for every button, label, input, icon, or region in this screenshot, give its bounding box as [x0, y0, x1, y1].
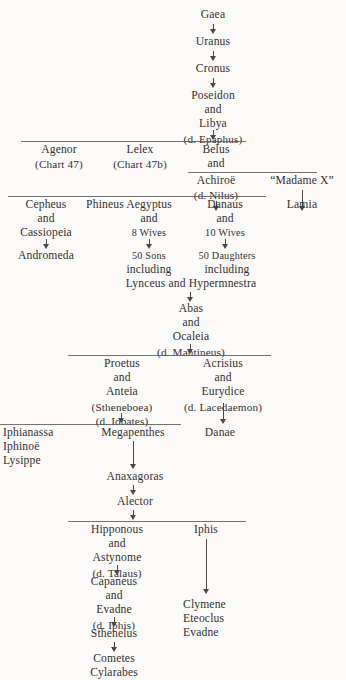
node-anteia-alt-name: (Stheneboea): [68, 400, 176, 414]
node-megapenthes: Megapenthes: [86, 426, 180, 440]
arrow-poseidon-to-belus: [209, 130, 218, 141]
node-fifty-daughters-label: 50 Daughters: [182, 249, 272, 263]
node-megapenthes-label: Megapenthes: [86, 426, 180, 440]
node-iphinoe-label: Iphinoë: [3, 440, 77, 454]
node-belus: Belus and: [186, 143, 246, 171]
node-fifty-daughters: 50 Daughters including: [182, 249, 272, 277]
node-ocaleia-label: Ocaleia: [140, 330, 242, 344]
node-sthenelus-children: Cometes Cylarabes: [70, 652, 158, 680]
node-gaea: Gaea: [183, 8, 243, 22]
node-alector-label: Alector: [99, 495, 171, 509]
node-iphis: Iphis: [176, 523, 236, 537]
node-andromeda-label: Andromeda: [2, 249, 90, 263]
conjunction-and-10: and: [68, 589, 160, 603]
connector-cepheus-phineus-aegyptus-danaus: [8, 196, 266, 197]
conjunction-and-6: and: [140, 316, 242, 330]
arrow-acrisius-to-danae: [219, 403, 228, 425]
node-including-2: including: [182, 263, 272, 277]
arrow-abas-to-proetus-acrisius: [186, 344, 195, 355]
arrow-proetus-to-megapenthes: [117, 413, 126, 424]
node-sthenelus-label: Sthenelus: [72, 627, 156, 641]
node-agenor: Agenor (Chart 47): [21, 143, 97, 171]
node-abas-label: Abas: [140, 302, 242, 316]
arrow-cronus-to-poseidon: [209, 78, 218, 89]
connector-agenor-lelex-belus: [21, 141, 246, 142]
node-danae: Danae: [191, 426, 249, 440]
node-hipponous-label: Hipponous: [68, 523, 166, 537]
node-cepheus: Cepheus and Cassiopeia: [8, 198, 84, 241]
node-iphis-label: Iphis: [176, 523, 236, 537]
node-agenor-chart-ref: (Chart 47): [21, 157, 97, 171]
node-cepheus-label: Cepheus: [8, 198, 84, 212]
node-lamia: Lamia: [272, 198, 332, 212]
node-madame-x: “Madame X”: [262, 174, 342, 188]
node-astynome-label: Astynome: [68, 551, 166, 565]
conjunction-and-3: and: [8, 212, 84, 226]
node-aegyptus-label: Aegyptus: [110, 198, 188, 212]
node-danaus-label: Danaus: [186, 198, 264, 212]
conjunction-and-7: and: [68, 371, 176, 385]
connector-hipponous-iphis: [68, 521, 246, 522]
node-including-1: including: [110, 263, 188, 277]
node-fifty-sons-label: 50 Sons: [110, 249, 188, 263]
arrow-iphis-to-children: [202, 539, 211, 595]
node-lysippe-label: Lysippe: [3, 454, 77, 468]
conjunction-and-4: and: [110, 212, 188, 226]
node-lelex-label: Lelex: [97, 143, 183, 157]
node-eteoclus-label: Eteoclus: [183, 612, 263, 626]
node-gaea-label: Gaea: [183, 8, 243, 22]
node-agenor-label: Agenor: [21, 143, 97, 157]
node-cylarabes-label: Cylarabes: [70, 666, 158, 680]
node-danae-label: Danae: [191, 426, 249, 440]
node-uranus-label: Uranus: [183, 35, 243, 49]
arrow-megapenthes-to-anaxagoras: [129, 441, 138, 470]
conjunction-and-8: and: [168, 371, 278, 385]
node-evadne-2-label: Evadne: [183, 626, 263, 640]
node-acrisius-label: Acrisius: [168, 357, 278, 371]
node-achiroe-label: Achiroë: [186, 174, 246, 188]
node-capaneus-label: Capaneus: [68, 575, 160, 589]
node-evadne-label: Evadne: [68, 603, 160, 617]
conjunction-and: and: [173, 103, 253, 117]
node-andromeda: Andromeda: [2, 249, 90, 263]
node-lelex: Lelex (Chart 47b): [97, 143, 183, 171]
node-lamia-label: Lamia: [272, 198, 332, 212]
node-proetus-label: Proetus: [68, 357, 176, 371]
node-clymene-label: Clymene: [183, 598, 263, 612]
node-lelex-chart-ref: (Chart 47b): [97, 157, 183, 171]
node-lynceus-hypermnestra-label: Lynceus and Hypermnestra: [103, 277, 279, 291]
connector-iphianassa-megapenthes: [0, 424, 181, 425]
node-iphianassa-label: Iphianassa: [3, 426, 77, 440]
arrow-uranus-to-cronus: [209, 51, 218, 62]
node-poseidon-label: Poseidon: [173, 89, 253, 103]
node-belus-label: Belus: [186, 143, 246, 157]
node-cronus: Cronus: [183, 62, 243, 76]
node-cometes-label: Cometes: [70, 652, 158, 666]
arrow-gaea-to-uranus: [209, 24, 218, 35]
node-anaxagoras: Anaxagoras: [92, 470, 178, 484]
conjunction-and-5: and: [186, 212, 264, 226]
node-anteia-label: Anteia: [68, 385, 176, 399]
conjunction-and-2: and: [186, 157, 246, 171]
connector-proetus-acrisius: [68, 355, 271, 356]
node-proetids: Iphianassa Iphinoë Lysippe: [3, 426, 77, 469]
node-cronus-label: Cronus: [183, 62, 243, 76]
node-eurydice-label: Eurydice: [168, 385, 278, 399]
arrow-alector-to-hipponous: [129, 510, 138, 521]
node-lynceus-hypermnestra: Lynceus and Hypermnestra: [103, 277, 279, 291]
node-anaxagoras-label: Anaxagoras: [92, 470, 178, 484]
node-madame-x-label: “Madame X”: [262, 174, 342, 188]
node-aegyptus: Aegyptus and 8 Wives: [110, 198, 188, 241]
node-uranus: Uranus: [183, 35, 243, 49]
node-sthenelus: Sthenelus: [72, 627, 156, 641]
conjunction-and-9: and: [68, 537, 166, 551]
node-danaus: Danaus and 10 Wives: [186, 198, 264, 241]
node-iphis-children: Clymene Eteoclus Evadne: [183, 598, 263, 641]
node-alector: Alector: [99, 495, 171, 509]
connector-achiroe-madamex: [188, 172, 317, 173]
node-fifty-sons: 50 Sons including: [110, 249, 188, 277]
